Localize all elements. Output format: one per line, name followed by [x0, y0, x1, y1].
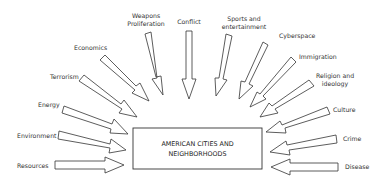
arrow-crime [270, 135, 337, 155]
arrow-environment [58, 131, 126, 153]
label-disease: Disease [345, 163, 370, 170]
label-energy: Energy [38, 101, 60, 109]
label-terrorism: Terrorism [49, 73, 79, 80]
label-cyberspace: Cyberspace [279, 32, 316, 40]
label-crime: Crime [343, 135, 362, 142]
center-box: AMERICAN CITIES AND NEIGHBORHOODS [133, 128, 262, 169]
label-culture: Culture [333, 106, 356, 113]
arrow-conflict [182, 31, 196, 99]
label-religion-line2: ideology [322, 80, 349, 88]
arrow-resources [55, 157, 124, 173]
label-resources: Resources [17, 162, 49, 169]
factor-economics: Economics [74, 44, 149, 101]
label-sports-line1: Sports and [227, 15, 261, 23]
label-economics: Economics [74, 44, 107, 51]
arrow-disease [271, 159, 338, 175]
center-title-line1: AMERICAN CITIES AND [161, 140, 233, 148]
factor-conflict: Conflict [177, 18, 201, 99]
label-sports-line2: entertainment [222, 23, 267, 30]
label-conflict: Conflict [177, 18, 201, 25]
arrow-weapons-proliferation [145, 32, 163, 95]
label-weapons-line1: Weapons [132, 12, 160, 20]
influences-diagram: AMERICAN CITIES AND NEIGHBORHOODS Resour… [0, 0, 385, 183]
center-title-line2: NEIGHBORHOODS [168, 150, 226, 158]
factor-crime: Crime [270, 135, 362, 155]
label-religion-line1: Religion and [316, 72, 354, 80]
arrow-sports-entertainment [215, 34, 232, 96]
factor-disease: Disease [271, 159, 370, 175]
factor-environment: Environment [17, 131, 126, 153]
label-weapons-line2: Proliferation [127, 20, 165, 27]
arrow-energy [62, 106, 128, 134]
label-environment: Environment [17, 132, 57, 139]
factor-energy: Energy [38, 101, 128, 134]
factor-resources: Resources [17, 157, 124, 173]
factor-culture: Culture [266, 106, 356, 133]
label-immigration: Immigration [299, 53, 337, 61]
